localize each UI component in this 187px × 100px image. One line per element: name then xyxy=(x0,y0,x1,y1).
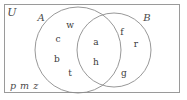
member-a-only-2: c xyxy=(55,35,60,44)
outside-members-label: p m z xyxy=(10,81,39,91)
member-b-only-2: r xyxy=(134,40,138,49)
member-b-only-3: g xyxy=(121,69,127,78)
universe-label: U xyxy=(7,7,16,18)
member-a-only-1: w xyxy=(66,21,74,30)
member-a-only-3: b xyxy=(54,55,60,64)
set-label-b: B xyxy=(143,13,150,23)
member-intersection-2: h xyxy=(93,58,99,67)
set-label-a: A xyxy=(37,13,44,23)
venn-diagram: U A B w c b t a h f r g p m z xyxy=(0,0,187,100)
member-b-only-1: f xyxy=(120,28,123,37)
member-a-only-4: t xyxy=(68,69,72,78)
member-intersection-1: a xyxy=(93,38,98,47)
